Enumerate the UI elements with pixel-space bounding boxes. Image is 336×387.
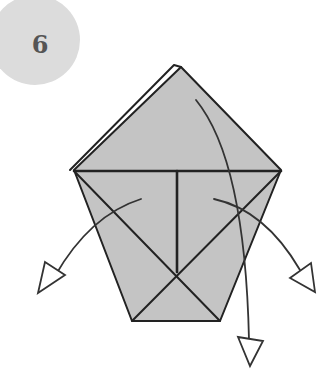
origami-diagram bbox=[0, 0, 336, 387]
right-arrowhead-icon bbox=[290, 263, 315, 292]
down-arrowhead-icon bbox=[238, 337, 263, 366]
